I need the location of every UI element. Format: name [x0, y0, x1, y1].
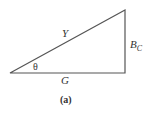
figure-caption: (a) [60, 94, 72, 106]
angle-label: θ [33, 61, 38, 72]
triangle-shape [10, 10, 125, 73]
triangle-diagram: Y θ G BC (a) [0, 0, 151, 113]
hypotenuse-label: Y [62, 27, 70, 39]
vertical-sub-label: C [137, 44, 143, 53]
vertical-side-label: BC [130, 38, 143, 53]
base-label: G [61, 74, 69, 86]
